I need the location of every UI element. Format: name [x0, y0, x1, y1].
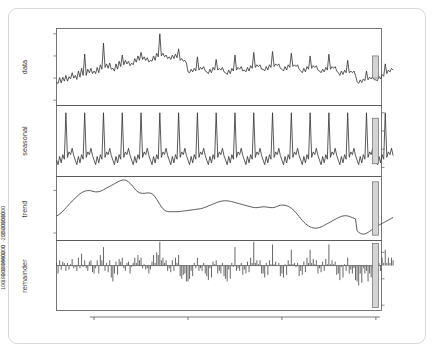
- y-tick-label-remainder: 100: [0, 0, 6, 290]
- scale-bar-remainder: [373, 244, 379, 308]
- panel-label-trend: trend: [20, 200, 29, 217]
- series-trend: [57, 180, 394, 234]
- panel-frame-remainder: [57, 241, 382, 311]
- series-data: [57, 34, 394, 84]
- panel-frame-seasonal: [57, 106, 382, 177]
- panel-label-data: data: [20, 60, 29, 74]
- stl-decomposition-chart: [0, 0, 436, 353]
- scale-bar-seasonal: [373, 118, 379, 164]
- panel-label-seasonal: seasonal: [20, 126, 29, 156]
- remainder-bars: [57, 242, 394, 286]
- panel-label-remainder: remainder: [20, 259, 29, 292]
- scale-bar-trend: [373, 182, 379, 235]
- x-axis-title: time: [0, 102, 218, 111]
- series-seasonal: [57, 113, 394, 165]
- scale-bar-data: [373, 56, 379, 78]
- panel-frame-trend: [57, 177, 382, 241]
